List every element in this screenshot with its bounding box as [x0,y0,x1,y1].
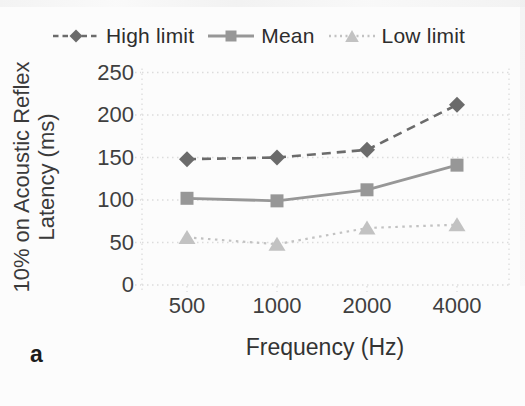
x-tick-label-1000: 1000 [232,293,322,319]
series-marker-triangle-low-limit [359,221,376,235]
y-tick-label-150: 150 [72,145,134,171]
y-tick-label-0: 0 [72,272,134,298]
y-tick-label-100: 100 [72,187,134,213]
x-tick-label-2000: 2000 [322,293,412,319]
x-tick-label-4000: 4000 [412,293,502,319]
series-marker-square-mean [361,183,374,196]
x-axis-title: Frequency (Hz) [175,334,475,361]
series-marker-diamond-high-limit [179,151,195,167]
series-marker-square-mean [271,194,284,207]
series-marker-diamond-high-limit [449,97,465,113]
series-line-low-limit [187,225,457,245]
figure-panel-label: a [30,341,43,368]
series-marker-square-mean [451,159,464,172]
series-line-high-limit [187,105,457,159]
x-tick-label-500: 500 [142,293,232,319]
series-line-mean [187,165,457,201]
series-marker-square-mean [181,192,194,205]
series-marker-triangle-low-limit [449,217,466,231]
scanned-chart-figure: High limitMeanLow limit 10% on Acoustic … [0,0,525,406]
series-marker-diamond-high-limit [359,142,375,158]
y-tick-label-50: 50 [72,230,134,256]
series-marker-diamond-high-limit [269,150,285,166]
y-tick-label-250: 250 [72,60,134,86]
y-tick-label-200: 200 [72,102,134,128]
series-marker-triangle-low-limit [179,230,196,244]
